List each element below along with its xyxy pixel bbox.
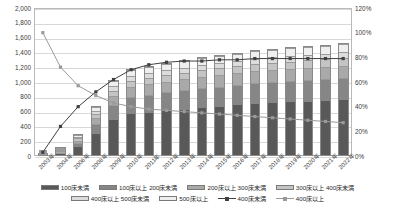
x-label-slot: 2003年 (34, 157, 52, 183)
x-label-slot: 2004年 (52, 157, 70, 183)
line-marker[interactable] (324, 120, 327, 123)
legend-swatch (187, 185, 205, 190)
legend-row-2: 400床以上 500床未満500床以上400床未満400床以上 (0, 193, 395, 204)
legend-swatch (276, 185, 294, 190)
y-tick-label: 1,400 (0, 49, 31, 56)
line-marker[interactable] (94, 94, 97, 97)
legend-swatch (41, 185, 59, 190)
line-marker[interactable] (200, 59, 203, 62)
legend-item[interactable]: 300床以上 400床未満 (276, 183, 354, 192)
x-label-slot: 2019年 (281, 157, 299, 183)
x-label-slot: 2009年 (105, 157, 123, 183)
legend-item[interactable]: 400床未満 (218, 194, 266, 203)
y2-tick-label: 40% (355, 103, 389, 110)
line-series-group (34, 8, 352, 156)
line-marker[interactable] (41, 31, 44, 34)
y-tick-label: 400 (0, 123, 31, 130)
y2-tick-label: 100% (355, 29, 389, 36)
y2-tick-label: 60% (355, 79, 389, 86)
line-marker[interactable] (130, 105, 133, 108)
x-label-slot: 2016年 (228, 157, 246, 183)
chart-legend: 100床未満100床以上 200床未満200床以上 300床未満300床以上 4… (0, 182, 395, 206)
y-tick-label: 2,000 (0, 5, 31, 12)
legend-item[interactable]: 200床以上 300床未満 (187, 183, 265, 192)
legend-swatch (99, 185, 117, 190)
legend-item[interactable]: 100床以上 200床未満 (99, 183, 177, 192)
y2-tick-label: 20% (355, 128, 389, 135)
legend-label: 200床以上 300床未満 (207, 183, 265, 192)
x-label-slot: 2013年 (175, 157, 193, 183)
line-marker[interactable] (112, 101, 115, 104)
y-tick-label: 200 (0, 138, 31, 145)
y-tick-label: 1,200 (0, 64, 31, 71)
line-marker[interactable] (130, 68, 133, 71)
legend-item[interactable]: 500床以上 (159, 194, 207, 203)
legend-label: 400床以上 500床未満 (91, 194, 149, 203)
y2-tick-label: 120% (355, 5, 389, 12)
x-label-slot: 2020年 (299, 157, 317, 183)
legend-item[interactable]: 100床未満 (41, 183, 89, 192)
legend-row-1: 100床未満100床以上 200床未満200床以上 300床未満300床以上 4… (0, 182, 395, 193)
line-marker[interactable] (218, 58, 221, 61)
line-marker[interactable] (289, 57, 292, 60)
legend-label: 100床未満 (61, 183, 89, 192)
y-tick-label: 1,800 (0, 19, 31, 26)
line-marker[interactable] (183, 59, 186, 62)
legend-swatch (159, 196, 177, 201)
y-tick-label: 800 (0, 93, 31, 100)
line-marker[interactable] (112, 78, 115, 81)
x-label-slot: 2021年 (317, 157, 335, 183)
line-marker[interactable] (165, 61, 168, 64)
legend-label: 500床以上 (179, 194, 207, 203)
line-marker[interactable] (77, 84, 80, 87)
line-marker[interactable] (306, 57, 309, 60)
line-marker[interactable] (253, 57, 256, 60)
line-marker[interactable] (218, 112, 221, 115)
line-marker[interactable] (306, 119, 309, 122)
chart-container: 02004006008001,0001,2001,4001,6001,8002,… (0, 0, 395, 208)
x-label-slot: 2022年 (334, 157, 352, 183)
legend-swatch (71, 196, 89, 201)
x-label-slot: 2012年 (158, 157, 176, 183)
y-tick-label: 0 (0, 153, 31, 160)
legend-item[interactable]: 400床以上 (276, 194, 324, 203)
y-tick-label: 600 (0, 108, 31, 115)
line-marker[interactable] (271, 116, 274, 119)
legend-item[interactable]: 400床以上 500床未満 (71, 194, 149, 203)
line-marker[interactable] (253, 115, 256, 118)
line-marker[interactable] (342, 57, 345, 60)
legend-label: 400床未満 (238, 194, 266, 203)
line-marker[interactable] (41, 151, 44, 154)
line-marker[interactable] (324, 57, 327, 60)
legend-line-swatch (218, 196, 236, 201)
line-marker[interactable] (94, 90, 97, 93)
legend-label: 400床以上 (296, 194, 324, 203)
x-label-slot: 2011年 (140, 157, 158, 183)
y-tick-label: 1,000 (0, 79, 31, 86)
line-marker[interactable] (165, 109, 168, 112)
line-marker[interactable] (271, 57, 274, 60)
line-path (43, 33, 343, 123)
x-label-slot: 2014年 (193, 157, 211, 183)
x-label-slot: 2010年 (122, 157, 140, 183)
line-marker[interactable] (59, 66, 62, 69)
y2-tick-label: 0% (355, 153, 389, 160)
line-marker[interactable] (147, 63, 150, 66)
line-marker[interactable] (77, 105, 80, 108)
x-label-slot: 2018年 (264, 157, 282, 183)
legend-line-swatch (276, 196, 294, 201)
line-marker[interactable] (236, 58, 239, 61)
legend-label: 100床以上 200床未満 (119, 183, 177, 192)
line-marker[interactable] (236, 114, 239, 117)
line-marker[interactable] (200, 111, 203, 114)
line-marker[interactable] (342, 121, 345, 124)
line-marker[interactable] (147, 108, 150, 111)
x-label-slot: 2017年 (246, 157, 264, 183)
line-marker[interactable] (183, 110, 186, 113)
line-marker[interactable] (59, 125, 62, 128)
x-axis-labels: 2003年2004年2006年2008年2009年2010年2011年2012年… (34, 157, 352, 183)
line-marker[interactable] (289, 117, 292, 120)
x-label-slot: 2015年 (211, 157, 229, 183)
x-label-slot: 2006年 (69, 157, 87, 183)
y-tick-label: 1,600 (0, 34, 31, 41)
